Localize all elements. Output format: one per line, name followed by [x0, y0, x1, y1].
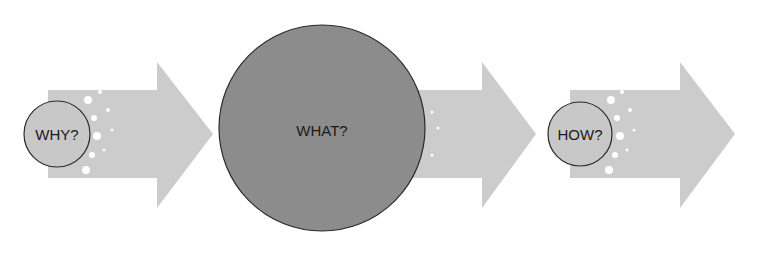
why-label: WHY? — [35, 126, 78, 143]
how-label: HOW? — [558, 126, 603, 143]
process-diagram — [0, 0, 758, 254]
what-label: WHAT? — [296, 122, 347, 139]
